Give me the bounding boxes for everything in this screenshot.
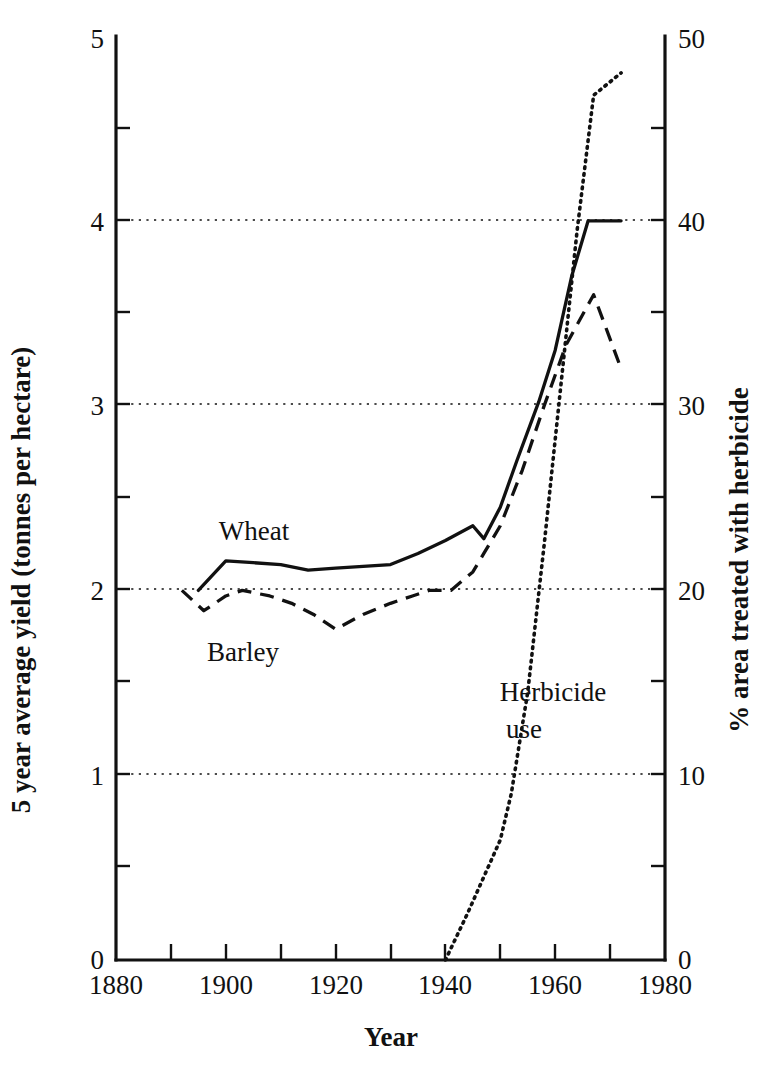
y-label-right-40: 40 [678,207,705,237]
y-label-left-5: 5 [91,24,105,54]
y-label-left-3: 3 [91,391,105,421]
x-label-1980: 1980 [638,970,692,1000]
y-label-left-1: 1 [91,761,105,791]
x-axis-ticks [171,944,610,960]
y-axis-left-ticks [116,128,130,866]
y-label-right-50: 50 [678,24,705,54]
x-label-1940: 1940 [418,970,472,1000]
chart-canvas: 5 4 3 2 1 0 50 40 30 20 10 0 1880 1900 1… [0,0,766,1072]
y-label-right-10: 10 [678,761,705,791]
y-axis-right-labels: 50 40 30 20 10 0 [678,24,705,975]
y-axis-left-labels: 5 4 3 2 1 0 [91,24,105,975]
x-axis-labels: 1880 1900 1920 1940 1960 1980 [89,970,692,1000]
y-axis-title-right: % area treated with herbicide [724,387,754,732]
series-annotation-barley: Barley [207,637,279,667]
y-label-left-2: 2 [91,576,105,606]
x-axis-title: Year [364,1022,418,1052]
y-label-left-4: 4 [91,207,105,237]
series-annotation-wheat: Wheat [219,516,290,546]
x-label-1920: 1920 [309,970,363,1000]
y-axis-title-left: 5 year average yield (tonnes per hectare… [6,347,36,813]
series-annotation-herbicide-line1: Herbicide [500,677,606,707]
x-label-1960: 1960 [528,970,582,1000]
x-label-1880: 1880 [89,970,143,1000]
series-line-herbicide-use [445,73,621,960]
x-label-1900: 1900 [199,970,253,1000]
y-label-right-20: 20 [678,576,705,606]
chart-figure: 5 4 3 2 1 0 50 40 30 20 10 0 1880 1900 1… [0,0,766,1072]
y-label-right-30: 30 [678,391,705,421]
series-annotation-herbicide-line2: use [506,714,542,744]
y-axis-right-ticks [651,128,665,866]
